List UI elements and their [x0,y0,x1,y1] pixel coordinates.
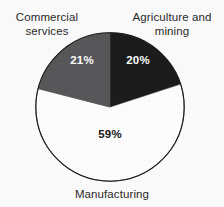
pie-chart-figure: Commercial services Agriculture and mini… [0,0,224,207]
slice-label-commercial-services-line1: Commercial [4,11,90,25]
slice-value-agriculture-and-mining: 20% [118,54,158,66]
pie-graphic [35,32,185,182]
slice-label-agriculture-and-mining-line1: Agriculture and [122,11,222,25]
pie-svg [35,32,185,182]
slice-label-manufacturing: Manufacturing [0,188,224,202]
slice-value-commercial-services: 21% [62,54,102,66]
slice-value-manufacturing: 59% [90,128,130,140]
